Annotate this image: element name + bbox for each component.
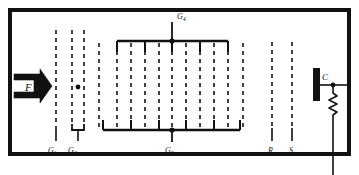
grid-g2-cathode-dot [76,85,81,90]
collector-label: C [322,72,329,82]
collector-plate [313,68,320,101]
canvas-background [0,0,359,175]
grid-g3-node-dot [169,127,174,132]
repeller-label: R [267,146,273,155]
schematic-svg: F G1 G2 [0,0,359,175]
grid-g4-node-dot [169,38,174,43]
shield-label: S [289,146,293,155]
beam-label: F [24,81,32,93]
figure-canvas: F G1 G2 [0,0,359,175]
